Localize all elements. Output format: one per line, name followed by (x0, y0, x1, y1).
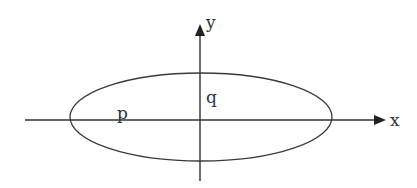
y-axis-arrowhead-icon (195, 24, 205, 36)
x-axis-label: x (390, 110, 400, 130)
x-axis-arrowhead-icon (374, 115, 386, 125)
ellipse-diagram: x y p q (0, 0, 417, 188)
y-axis-label: y (205, 12, 216, 32)
ellipse (70, 73, 332, 161)
semi-minor-label-q: q (206, 87, 217, 107)
semi-major-label-p: p (117, 103, 128, 123)
